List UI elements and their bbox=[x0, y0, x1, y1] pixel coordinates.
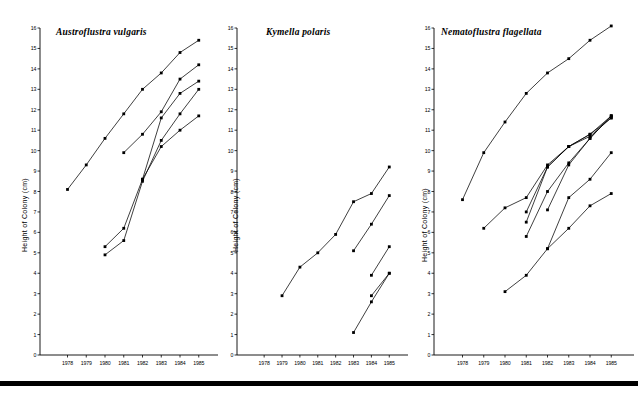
y-tick-label: 11 bbox=[425, 127, 430, 133]
y-axis-title-2: Height of Colony (cm) bbox=[421, 188, 428, 262]
x-tick-label: 1985 bbox=[193, 360, 204, 366]
y-tick-label: 15 bbox=[31, 45, 37, 51]
y-tick-label: 15 bbox=[425, 45, 431, 51]
data-point-marker bbox=[370, 274, 373, 277]
y-tick-label: 4 bbox=[428, 270, 431, 276]
x-tick-label: 1985 bbox=[384, 360, 395, 366]
data-point-marker bbox=[504, 206, 507, 209]
data-point-marker bbox=[85, 164, 88, 167]
data-point-marker bbox=[567, 227, 570, 230]
data-point-marker bbox=[546, 247, 549, 250]
x-tick-label: 1984 bbox=[174, 360, 185, 366]
x-tick-label: 1983 bbox=[156, 360, 167, 366]
data-point-marker bbox=[197, 114, 200, 117]
series-line-colony-4 bbox=[105, 89, 199, 255]
series-line-colony-1 bbox=[463, 26, 612, 200]
x-tick-label: 1980 bbox=[499, 360, 510, 366]
y-tick-label: 9 bbox=[231, 168, 234, 174]
y-tick-label: 4 bbox=[231, 270, 234, 276]
data-point-marker bbox=[197, 63, 200, 66]
data-point-marker bbox=[525, 196, 528, 199]
x-tick-label: 1982 bbox=[542, 360, 553, 366]
x-tick-label: 1981 bbox=[312, 360, 323, 366]
y-tick-label: 10 bbox=[425, 148, 431, 154]
x-tick-label: 1978 bbox=[457, 360, 468, 366]
series-line-colony-4 bbox=[526, 118, 611, 222]
y-tick-label: 4 bbox=[34, 270, 37, 276]
data-point-marker bbox=[179, 51, 182, 54]
x-tick-label: 1982 bbox=[137, 360, 148, 366]
data-point-marker bbox=[388, 272, 391, 275]
y-tick-label: 12 bbox=[31, 107, 37, 113]
y-tick-label: 16 bbox=[425, 25, 431, 31]
data-point-marker bbox=[546, 166, 549, 169]
y-tick-label: 7 bbox=[428, 209, 431, 215]
x-tick-label: 1979 bbox=[276, 360, 287, 366]
data-point-marker bbox=[525, 221, 528, 224]
data-point-marker bbox=[160, 145, 163, 148]
data-point-marker bbox=[197, 80, 200, 83]
data-point-marker bbox=[610, 114, 613, 117]
data-point-marker bbox=[388, 194, 391, 197]
y-tick-label: 1 bbox=[428, 332, 431, 338]
x-tick-label: 1981 bbox=[521, 360, 532, 366]
data-point-marker bbox=[122, 239, 125, 242]
data-point-marker bbox=[546, 190, 549, 193]
y-axis-title-0: Height of Colony (cm) bbox=[21, 178, 28, 252]
data-point-marker bbox=[66, 188, 69, 191]
y-tick-label: 5 bbox=[428, 250, 431, 256]
data-point-marker bbox=[352, 200, 355, 203]
data-point-marker bbox=[504, 121, 507, 124]
chart-panel-kymella-polaris: 0123456789101112131415161978197919801981… bbox=[222, 0, 412, 380]
y-tick-label: 8 bbox=[428, 189, 431, 195]
x-tick-label: 1981 bbox=[118, 360, 129, 366]
data-point-marker bbox=[567, 164, 570, 167]
data-point-marker bbox=[567, 57, 570, 60]
data-point-marker bbox=[197, 88, 200, 91]
y-tick-label: 13 bbox=[31, 86, 37, 92]
x-tick-label: 1982 bbox=[330, 360, 341, 366]
y-tick-label: 7 bbox=[34, 209, 37, 215]
data-point-marker bbox=[179, 78, 182, 81]
x-tick-label: 1985 bbox=[606, 360, 617, 366]
data-point-marker bbox=[370, 294, 373, 297]
y-tick-label: 13 bbox=[228, 86, 234, 92]
y-tick-label: 2 bbox=[428, 311, 431, 317]
data-point-marker bbox=[299, 266, 302, 269]
y-tick-label: 6 bbox=[428, 229, 431, 235]
y-tick-label: 8 bbox=[34, 189, 37, 195]
data-point-marker bbox=[482, 151, 485, 154]
x-tick-label: 1983 bbox=[563, 360, 574, 366]
data-point-marker bbox=[610, 25, 613, 28]
data-point-marker bbox=[589, 137, 592, 140]
data-point-marker bbox=[388, 245, 391, 248]
data-point-marker bbox=[122, 112, 125, 115]
y-tick-label: 16 bbox=[31, 25, 37, 31]
data-point-marker bbox=[370, 223, 373, 226]
data-point-marker bbox=[388, 166, 391, 169]
y-tick-label: 9 bbox=[34, 168, 37, 174]
bottom-rule bbox=[0, 381, 638, 386]
data-point-marker bbox=[281, 294, 284, 297]
data-point-marker bbox=[122, 227, 125, 230]
y-tick-label: 0 bbox=[34, 352, 37, 358]
data-point-marker bbox=[352, 331, 355, 334]
data-point-marker bbox=[525, 211, 528, 214]
chart-title-1: Kymella polaris bbox=[266, 27, 331, 37]
y-tick-label: 0 bbox=[231, 352, 234, 358]
y-tick-label: 12 bbox=[228, 107, 234, 113]
data-point-marker bbox=[589, 204, 592, 207]
y-tick-label: 16 bbox=[228, 25, 234, 31]
series-line-colony-5 bbox=[526, 116, 611, 237]
data-point-marker bbox=[482, 227, 485, 230]
data-point-marker bbox=[589, 39, 592, 42]
series-line-colony-3 bbox=[105, 81, 199, 247]
data-point-marker bbox=[525, 274, 528, 277]
y-tick-label: 6 bbox=[34, 229, 37, 235]
x-tick-label: 1979 bbox=[478, 360, 489, 366]
data-point-marker bbox=[461, 198, 464, 201]
y-tick-label: 1 bbox=[231, 332, 234, 338]
series-line-colony-3 bbox=[371, 247, 389, 276]
data-point-marker bbox=[334, 233, 337, 236]
data-point-marker bbox=[141, 178, 144, 181]
